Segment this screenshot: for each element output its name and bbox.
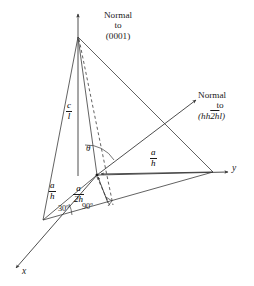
label-axis-y: y (232, 163, 236, 173)
label-a-over-h-right: a h (150, 148, 157, 168)
label-normal-hh2hl: Normal to (hh2hl) (198, 90, 254, 121)
diagram-canvas (0, 0, 254, 286)
label-angle-90: 90º (82, 203, 93, 212)
label-normal-0001-line1: Normal (84, 10, 152, 20)
a-over-h-right-denominator: h (150, 159, 157, 168)
c-over-l-numerator: c (66, 101, 72, 110)
dashed-apex-to-base-midpoint (79, 39, 113, 205)
plane-edge-apex-to-right (78, 37, 213, 172)
label-normal-0001: Normal to (0001) (84, 10, 152, 41)
edge-apex-to-origin (78, 37, 97, 175)
axis-x (16, 175, 97, 268)
a-over-2h-numerator: a (73, 184, 84, 193)
a-over-h-left-denominator: h (49, 192, 56, 201)
label-normal-hh2hl-line2: to (198, 100, 242, 110)
label-normal-0001-line2: to (84, 20, 152, 30)
a-over-h-left-numerator: a (49, 181, 56, 190)
arrow-normal-hh2hl (97, 100, 196, 175)
c-over-l-denominator: l (66, 112, 72, 121)
a-over-h-right-numerator: a (150, 148, 157, 157)
label-a-over-h-left: a h (49, 181, 56, 201)
label-normal-0001-line3: (0001) (84, 31, 152, 41)
label-normal-hh2hl-index: (hh2hl) (198, 111, 254, 121)
label-angle-30: 30º (58, 205, 69, 214)
label-angle-theta: θ (86, 144, 90, 154)
crystal-plane-diagram: Normal to (0001) Normal to (hh2hl) c l a… (0, 0, 254, 286)
label-normal-hh2hl-line1: Normal (198, 90, 254, 100)
origin-point (96, 174, 99, 177)
label-c-over-l: c l (66, 101, 72, 121)
index-paren-close: ) (222, 111, 225, 121)
label-a-over-2h: a 2h (73, 184, 84, 204)
label-axis-x: x (22, 266, 26, 276)
index-hh: hh (201, 111, 210, 121)
